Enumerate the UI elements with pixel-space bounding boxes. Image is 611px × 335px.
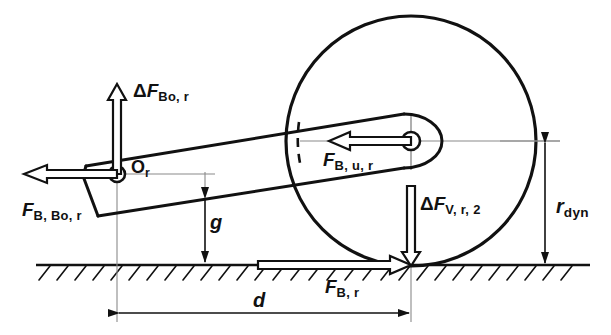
label-delta-f-v-r-2: ΔFV, r, 2 — [420, 194, 481, 213]
label-f-b-u-r: FB, u, r — [323, 150, 373, 169]
label-f-b-r-symbol: F — [325, 276, 337, 297]
label-delta-f-v-r-2-sub: V, r, 2 — [445, 202, 480, 217]
label-dimension-g: g — [210, 212, 222, 232]
label-r-dyn-symbol: r — [556, 195, 564, 217]
hidden-rim-arc — [298, 122, 300, 163]
label-f-b-bo-r: FB, Bo, r — [22, 200, 82, 219]
label-delta-f-v-r-2-symbol: F — [434, 193, 446, 214]
label-f-b-r-sub: B, r — [337, 285, 360, 300]
force-arrow-f-b-bo-r — [24, 165, 117, 183]
diagram-canvas — [0, 0, 611, 335]
label-delta-f-bo-r: ΔFBo, r — [133, 81, 189, 100]
label-delta-f-bo-r-sub: Bo, r — [158, 89, 189, 104]
label-f-b-r: FB, r — [325, 277, 359, 296]
force-arrow-delta-f-v-r-2 — [402, 186, 420, 266]
label-point-o-r-symbol: O — [131, 157, 145, 177]
force-arrow-f-b-u-r — [329, 132, 411, 150]
label-r-dyn: rdyn — [556, 196, 589, 216]
label-dimension-d-symbol: d — [253, 289, 265, 311]
label-f-b-bo-r-symbol: F — [22, 199, 34, 220]
suspension-force-diagram: ΔFBo, r Or FB, Bo, r FB, u, r ΔFV, r, 2 … — [0, 0, 611, 335]
label-f-b-bo-r-sub: B, Bo, r — [34, 208, 82, 223]
label-f-b-u-r-symbol: F — [323, 149, 335, 170]
label-point-o-r-sub: r — [145, 166, 150, 180]
label-delta-f-bo-r-prefix: Δ — [133, 80, 147, 101]
label-r-dyn-sub: dyn — [564, 205, 589, 220]
label-delta-f-bo-r-symbol: F — [147, 80, 159, 101]
label-delta-f-v-r-2-prefix: Δ — [420, 193, 434, 214]
dimension-r-dyn — [500, 141, 560, 263]
label-dimension-d: d — [253, 290, 265, 310]
label-f-b-u-r-sub: B, u, r — [335, 158, 374, 173]
label-dimension-g-symbol: g — [210, 211, 222, 233]
label-point-o-r: Or — [131, 158, 150, 176]
